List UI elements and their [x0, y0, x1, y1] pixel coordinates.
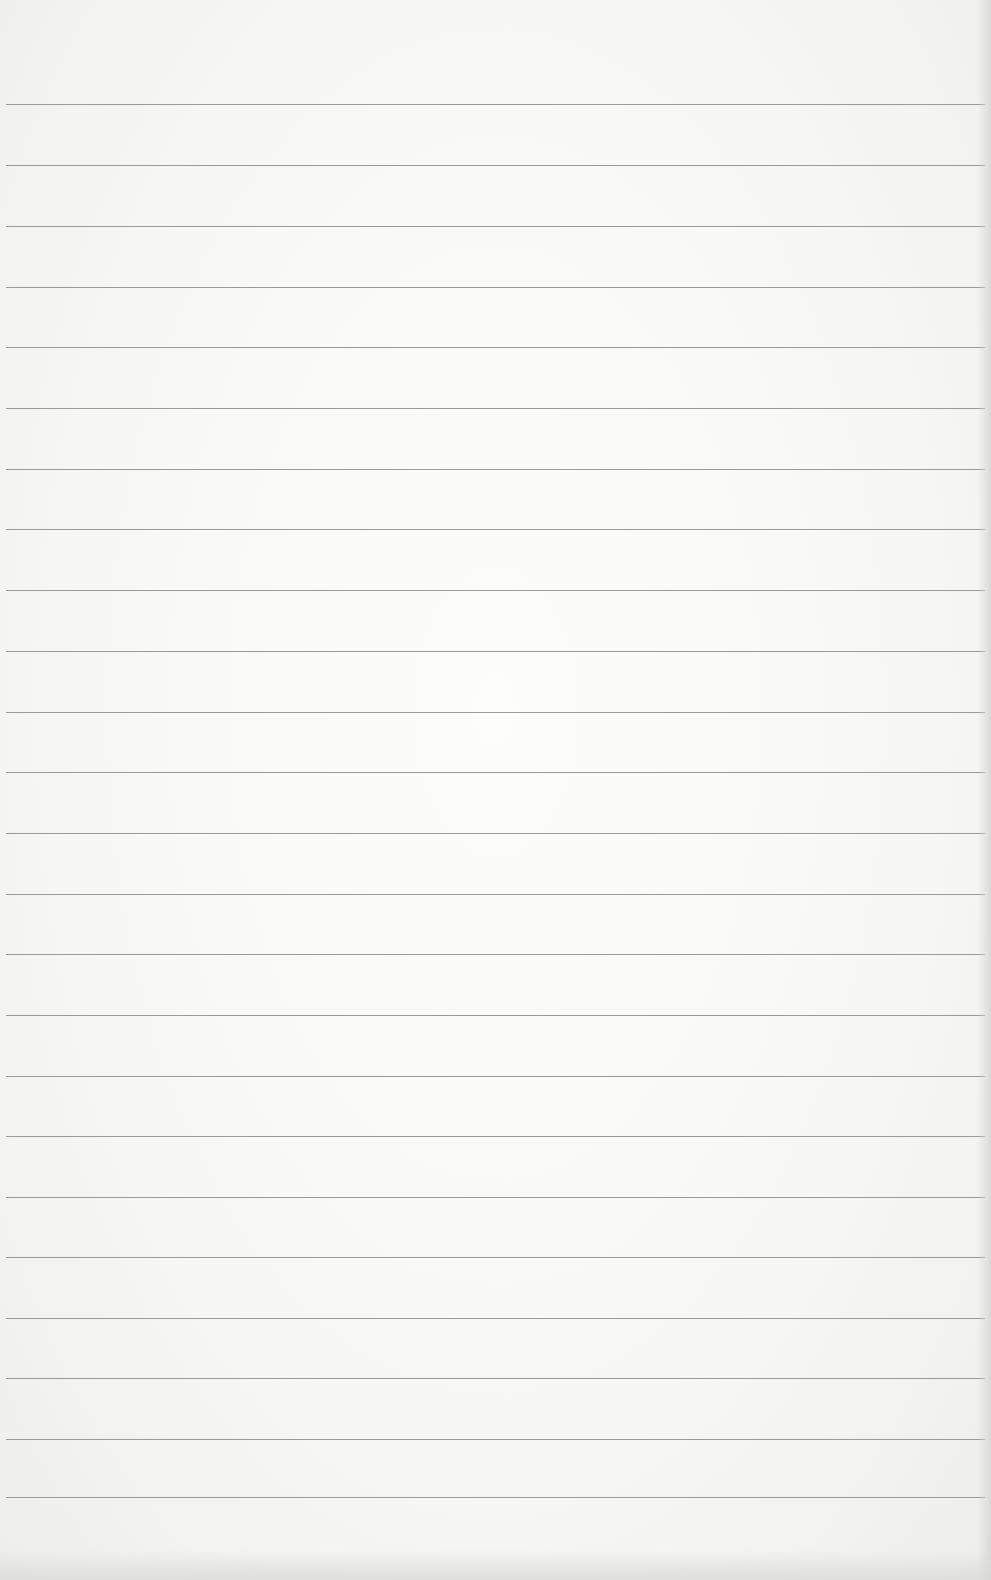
ruled-line	[6, 347, 985, 348]
ruled-line	[6, 833, 985, 834]
ruled-line	[6, 954, 985, 955]
ruled-line	[6, 165, 985, 166]
ruled-line	[6, 1257, 985, 1258]
ruled-line	[6, 1497, 985, 1498]
ruled-line	[6, 712, 985, 713]
ruled-line	[6, 894, 985, 895]
ruled-line	[6, 226, 985, 227]
ruled-line	[6, 104, 985, 105]
ruled-line	[6, 287, 985, 288]
ruled-line	[6, 469, 985, 470]
ruled-line	[6, 1076, 985, 1077]
ruled-line	[6, 1197, 985, 1198]
lined-paper-sheet	[0, 0, 991, 1580]
ruled-line	[6, 1318, 985, 1319]
ruled-line	[6, 408, 985, 409]
ruled-line	[6, 651, 985, 652]
ruled-line	[6, 772, 985, 773]
ruled-line	[6, 1136, 985, 1137]
ruled-line	[6, 1378, 985, 1379]
ruled-line	[6, 590, 985, 591]
ruled-line	[6, 1015, 985, 1016]
ruled-line	[6, 529, 985, 530]
ruled-line	[6, 1439, 985, 1440]
